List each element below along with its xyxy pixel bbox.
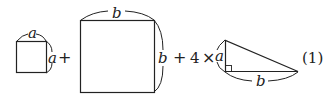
plus-sign-1: +: [58, 48, 71, 67]
triangle-base-label: b: [256, 72, 266, 90]
small-square: a a: [17, 24, 57, 73]
small-square-side-label: a: [48, 49, 57, 67]
big-square-side-label: b: [158, 49, 168, 67]
triangle-leg-label: a: [215, 47, 224, 65]
big-square: b b: [81, 4, 168, 93]
equation-number: (1): [302, 49, 323, 67]
coefficient: 4: [190, 49, 200, 67]
big-square-top-label: b: [112, 4, 122, 22]
small-square-top-label: a: [28, 24, 37, 42]
area-decomposition-diagram: a a + b b + 4 × a b (1): [0, 0, 329, 98]
times-sign: ×: [202, 48, 215, 67]
right-angle-marker: [226, 66, 232, 72]
plus-sign-2: +: [173, 48, 186, 67]
right-triangle: a b: [215, 40, 298, 90]
